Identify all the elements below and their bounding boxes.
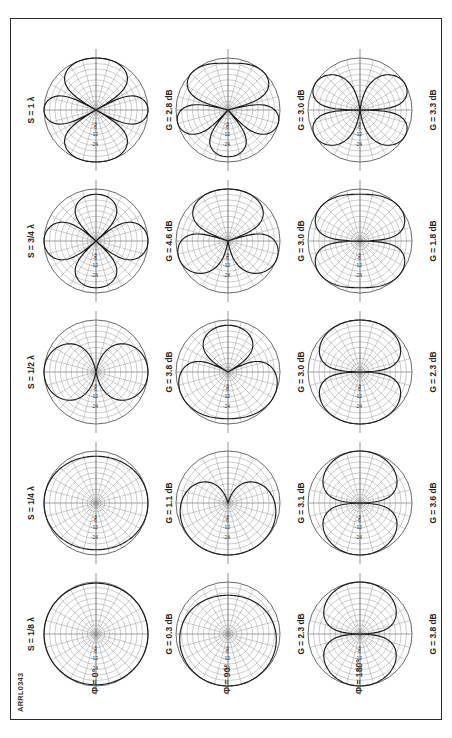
- svg-text:-24: -24: [91, 403, 99, 409]
- polar-plot-r1-c2: -3-6-12-24: [162, 306, 294, 438]
- rotated-figure-container: ARRL0343 S = 1/8 λS = 1/4 λS = 1/2 λS = …: [0, 0, 452, 738]
- svg-text:-6: -6: [92, 648, 97, 654]
- svg-text:-6: -6: [356, 648, 361, 654]
- svg-text:-12: -12: [355, 131, 363, 137]
- svg-text:-24: -24: [355, 141, 363, 147]
- gain-label-r2-c2: G = 2.3 dB: [428, 317, 438, 427]
- polar-plot-r2-c2: -3-6-12-24: [294, 306, 426, 438]
- svg-text:-12: -12: [223, 131, 231, 137]
- gain-label-r2-c1: G = 3.6 dB: [428, 448, 438, 558]
- svg-text:-12: -12: [223, 262, 231, 268]
- polar-plot-r1-c4: -3-6-12-24: [162, 44, 294, 176]
- svg-text:-24: -24: [223, 534, 231, 540]
- svg-text:-6: -6: [224, 124, 229, 130]
- svg-text:-24: -24: [223, 272, 231, 278]
- gain-label-r2-c0: G = 3.8 dB: [428, 579, 438, 689]
- gain-label-r2-c4: G = 3.3 dB: [428, 55, 438, 165]
- svg-text:-6: -6: [224, 386, 229, 392]
- svg-text:-12: -12: [223, 393, 231, 399]
- polar-plot-r1-c3: -3-6-12-24: [162, 175, 294, 307]
- svg-text:-6: -6: [224, 648, 229, 654]
- svg-text:-24: -24: [223, 141, 231, 147]
- svg-text:-24: -24: [91, 665, 99, 671]
- polar-plot-r0-c3: -3-6-12-24: [30, 175, 162, 307]
- svg-text:-24: -24: [355, 272, 363, 278]
- svg-text:-12: -12: [91, 393, 99, 399]
- svg-text:-6: -6: [92, 124, 97, 130]
- svg-text:-24: -24: [355, 534, 363, 540]
- svg-text:-12: -12: [91, 131, 99, 137]
- polar-plot-r0-c1: -3-6-12-24: [30, 437, 162, 569]
- svg-text:-6: -6: [356, 517, 361, 523]
- polar-plot-r1-c1: -3-6-12-24: [162, 437, 294, 569]
- svg-text:-12: -12: [91, 524, 99, 530]
- svg-text:-12: -12: [355, 262, 363, 268]
- svg-text:-24: -24: [223, 403, 231, 409]
- polar-plot-r0-c0: -3-6-12-24: [30, 568, 162, 700]
- gain-label-r2-c3: G = 1.8 dB: [428, 186, 438, 296]
- svg-text:-12: -12: [91, 655, 99, 661]
- svg-text:-12: -12: [223, 655, 231, 661]
- svg-text:-12: -12: [355, 524, 363, 530]
- svg-text:-6: -6: [356, 386, 361, 392]
- polar-plot-r2-c1: -3-6-12-24: [294, 437, 426, 569]
- svg-text:-6: -6: [224, 517, 229, 523]
- svg-text:-24: -24: [91, 141, 99, 147]
- svg-text:-24: -24: [223, 665, 231, 671]
- svg-text:-6: -6: [92, 517, 97, 523]
- svg-text:-6: -6: [92, 386, 97, 392]
- svg-text:-12: -12: [355, 393, 363, 399]
- figure-page: ARRL0343 S = 1/8 λS = 1/4 λS = 1/2 λS = …: [0, 0, 452, 738]
- polar-plot-r0-c2: -3-6-12-24: [30, 306, 162, 438]
- svg-text:-12: -12: [355, 655, 363, 661]
- plot-grid: S = 1/8 λS = 1/4 λS = 1/2 λS = 3/4 λS = …: [10, 18, 442, 720]
- svg-text:-6: -6: [224, 255, 229, 261]
- polar-plot-r0-c4: -3-6-12-24: [30, 44, 162, 176]
- polar-plot-r2-c4: -3-6-12-24: [294, 44, 426, 176]
- svg-text:-24: -24: [91, 534, 99, 540]
- svg-text:-24: -24: [91, 272, 99, 278]
- polar-plot-r2-c3: -3-6-12-24: [294, 175, 426, 307]
- svg-text:-6: -6: [356, 255, 361, 261]
- svg-text:-12: -12: [223, 524, 231, 530]
- polar-plot-r2-c0: -3-6-12-24: [294, 568, 426, 700]
- polar-plot-r1-c0: -3-6-12-24: [162, 568, 294, 700]
- svg-text:-24: -24: [355, 665, 363, 671]
- svg-text:-6: -6: [356, 124, 361, 130]
- svg-text:-12: -12: [91, 262, 99, 268]
- svg-text:-6: -6: [92, 255, 97, 261]
- svg-text:-24: -24: [355, 403, 363, 409]
